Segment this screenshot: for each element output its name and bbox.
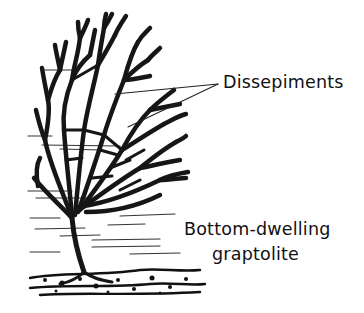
caption-line-2: graptolite <box>212 244 299 264</box>
graptolite-illustration <box>0 0 364 313</box>
trunk <box>72 218 84 272</box>
dissepiments-label: Dissepiments <box>223 72 344 92</box>
branches <box>34 14 188 218</box>
graptolite-figure: Dissepiments Bottom-dwelling graptolite <box>0 0 364 313</box>
caption-line-1: Bottom-dwelling <box>184 219 330 239</box>
